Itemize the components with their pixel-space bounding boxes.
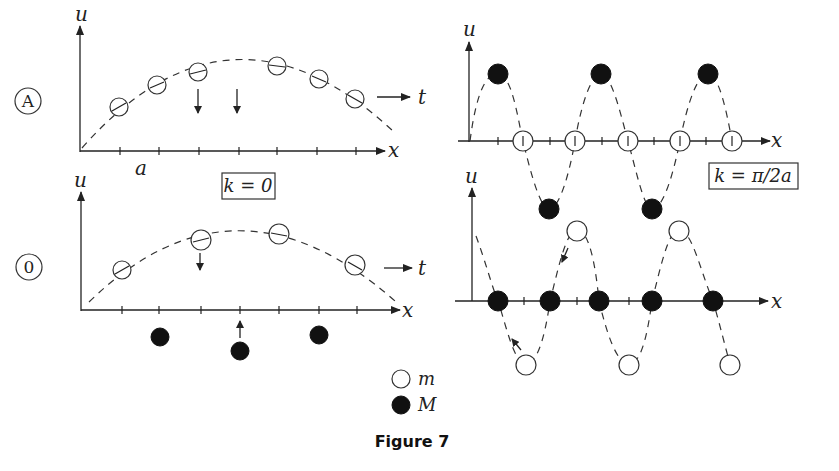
lattice-constant-label: a: [135, 156, 147, 180]
legend: m M: [392, 368, 437, 415]
legend-open-circle-icon: [392, 370, 410, 388]
mode-marker-label: A: [21, 91, 35, 111]
phonon-modes-figure: u x t a A k = 0: [0, 0, 839, 471]
x-axis-label: x: [771, 289, 782, 313]
x-axis-label: x: [388, 138, 399, 162]
mode-marker-label: 0: [24, 257, 35, 277]
panel-acoustic-k-pi-2a: u x k = π/2a: [458, 17, 798, 219]
figure-caption: Figure 7: [375, 432, 450, 451]
legend-label-heavy: M: [417, 394, 437, 415]
legend-label-light: m: [418, 368, 435, 389]
legend-filled-circle-icon: [392, 396, 410, 414]
time-label: t: [418, 256, 427, 280]
y-axis-label: u: [75, 2, 88, 26]
y-axis-label: u: [465, 164, 478, 188]
y-axis-label: u: [74, 168, 87, 192]
k-label: k = 0: [224, 175, 273, 196]
time-label: t: [418, 85, 427, 109]
x-axis-label: x: [402, 298, 413, 322]
displacement-arrow: [562, 248, 568, 262]
k-label: k = π/2a: [714, 165, 792, 186]
light-atoms: [113, 224, 365, 279]
y-axis-label: u: [463, 17, 476, 41]
panel-optical-k-pi-2a: u x: [455, 164, 782, 375]
x-axis-label: x: [771, 128, 782, 152]
